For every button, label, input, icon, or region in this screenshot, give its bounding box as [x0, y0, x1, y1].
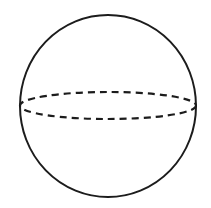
sphere-diagram — [0, 0, 211, 208]
sphere-svg — [0, 0, 211, 208]
equator-dashed-ellipse — [20, 92, 196, 119]
sphere-outline — [20, 15, 196, 197]
